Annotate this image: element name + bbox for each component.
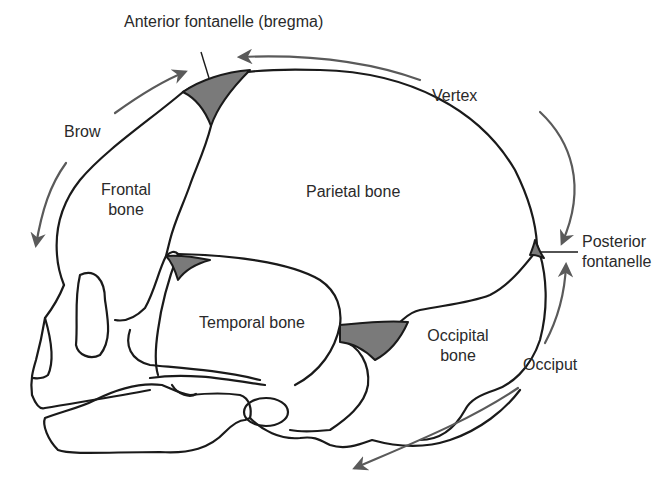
label-brow: Brow <box>64 122 100 142</box>
anterior-fontanelle <box>183 70 250 126</box>
arrow-brow-to-bregma <box>115 72 185 113</box>
maxilla-inner <box>128 330 260 380</box>
label-anterior-fontanelle: Anterior fontanelle (bregma) <box>124 12 323 32</box>
label-posterior-fontanelle-line1: Posterior <box>582 232 651 252</box>
coronal-suture <box>166 126 211 256</box>
mandible-outline <box>44 384 250 453</box>
skull-base <box>250 390 520 447</box>
arrow-vertex-to-bregma <box>240 56 420 80</box>
arrow-brow-down <box>36 163 66 245</box>
nasal-outline <box>32 318 51 378</box>
label-frontal-bone-line1: Frontal <box>96 180 156 200</box>
sphenoid-fontanelle <box>166 256 210 280</box>
mastoid-fontanelle <box>340 321 408 360</box>
label-vertex: Vertex <box>432 86 477 106</box>
anterior-fontanelle-leader <box>201 52 209 78</box>
label-occipital-bone-line2: bone <box>420 346 496 366</box>
label-frontal-bone-line2: bone <box>96 200 156 220</box>
parietal-bone-outline <box>183 70 537 245</box>
arrow-vertex-to-posterior <box>540 112 575 243</box>
zygomatic-outline <box>115 252 178 321</box>
fetal-skull-diagram <box>0 0 672 489</box>
label-occipital-bone-line1: Occipital <box>420 326 496 346</box>
arrow-occiput-down <box>355 388 518 468</box>
arrow-occiput-up <box>545 265 566 343</box>
label-temporal-bone: Temporal bone <box>199 313 305 333</box>
orbit-outline <box>76 273 108 357</box>
face-outline <box>31 285 150 408</box>
lambdoid-suture <box>400 250 537 322</box>
posterior-fontanelle <box>530 240 544 258</box>
label-posterior-fontanelle: Posterior fontanelle <box>582 232 651 272</box>
label-occipital-bone: Occipital bone <box>420 326 496 366</box>
label-occiput: Occiput <box>523 355 577 375</box>
label-posterior-fontanelle-line2: fontanelle <box>582 252 651 272</box>
label-frontal-bone: Frontal bone <box>96 180 156 220</box>
label-parietal-bone: Parietal bone <box>306 182 400 202</box>
